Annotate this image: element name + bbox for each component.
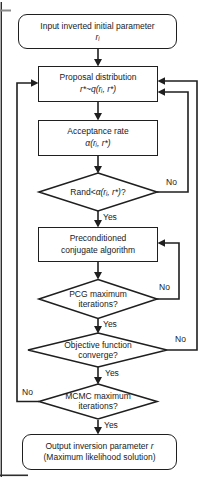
proposal-label: Proposal distribution xyxy=(59,72,136,84)
node-input-parameter: Input inverted initial parameter rᵢ xyxy=(18,14,177,49)
acceptance-formula: α(rᵢ, r*) xyxy=(85,138,110,150)
node-acceptance-rate: Acceptance rate α(rᵢ, r*) xyxy=(38,120,158,156)
edge-label-yes-rand: Yes xyxy=(103,213,117,222)
precond-label-line1: Preconditioned xyxy=(70,233,127,245)
flowchart-canvas: Input inverted initial parameter rᵢ Prop… xyxy=(0,0,209,484)
proposal-formula: r*~q(rᵢ, r*) xyxy=(80,84,116,96)
node-preconditioned-conjugate: Preconditioned conjugate algorithm xyxy=(38,227,158,262)
mcmc-iterations-text: MCMC maximum iterations? xyxy=(38,390,158,412)
rand-prefix: Rand< xyxy=(70,187,95,197)
node-output-parameter: Output inversion parameter r (Maximum li… xyxy=(22,434,177,470)
edge-label-no-rand: No xyxy=(166,178,177,187)
edge-label-yes-objective: Yes xyxy=(105,369,119,378)
arrowhead-left-icon xyxy=(158,88,166,96)
objective-line2: converge? xyxy=(78,350,118,360)
input-formula: rᵢ xyxy=(96,32,100,43)
loop-objective-no-to-proposal xyxy=(164,81,197,350)
edge-label-no-objective: No xyxy=(175,335,186,344)
mcmc-line1: MCMC maximum xyxy=(65,391,131,401)
arrowhead-left-icon xyxy=(158,239,166,247)
acceptance-label: Acceptance rate xyxy=(67,126,128,138)
edge-label-no-mcmc: No xyxy=(22,388,33,397)
arrowhead-left-icon xyxy=(158,77,166,85)
edge-label-yes-pcg: Yes xyxy=(103,320,117,329)
arrowhead-down-icon xyxy=(94,272,102,280)
output-label-line1: Output inversion parameter r xyxy=(45,441,153,452)
output-label-text: Output inversion parameter xyxy=(45,441,148,451)
input-label: Input inverted initial parameter xyxy=(40,21,154,32)
objective-converge-text: Objective function converge? xyxy=(28,339,168,361)
objective-line1: Objective function xyxy=(64,340,132,350)
rand-check-line: Rand<α(rᵢ, r*)? xyxy=(70,187,125,197)
edge-label-yes-mcmc: Yes xyxy=(104,421,118,430)
pcg-line2: iterations? xyxy=(78,299,117,309)
node-proposal-distribution: Proposal distribution r*~q(rᵢ, r*) xyxy=(38,66,158,102)
pcg-iterations-text: PCG maximum iterations? xyxy=(38,288,158,310)
rand-check-text: Rand<α(rᵢ, r*)? xyxy=(38,186,158,198)
pcg-line1: PCG maximum xyxy=(69,289,127,299)
mcmc-line2: iterations? xyxy=(78,401,117,411)
edge-label-no-pcg: No xyxy=(159,283,170,292)
output-param: r xyxy=(151,441,154,451)
output-label-line2: (Maximum likelihood solution) xyxy=(44,452,156,463)
precond-label-line2: conjugate algorithm xyxy=(61,245,135,257)
rand-formula: α(rᵢ, r*) xyxy=(96,187,121,197)
rand-suffix: ? xyxy=(121,187,126,197)
